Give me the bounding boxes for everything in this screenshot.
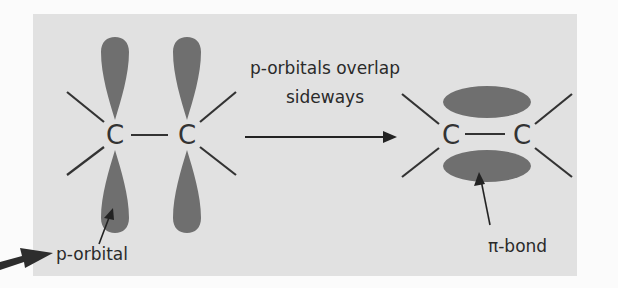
p-orbital-lobe-upper-right (173, 37, 201, 120)
transition-caption-line2: sideways (225, 89, 425, 106)
p-orbital-lobe-lower-left (101, 150, 129, 233)
p-orbital-lobe-lower-right (173, 150, 201, 233)
carbon-atom-right-2: C (511, 122, 533, 148)
label-pointer-line (481, 180, 490, 225)
carbon-atom-left-1: C (104, 122, 126, 148)
pi-bond-upper-lobe (443, 86, 531, 118)
transition-caption-line1: p-orbitals overlap (225, 60, 425, 77)
bond-line (67, 92, 104, 122)
bond-line (535, 148, 572, 177)
bond-line (67, 147, 104, 175)
bond-line (200, 147, 236, 175)
bond-line (535, 94, 572, 124)
p-orbital-label: p-orbital (56, 246, 128, 263)
pi-bond-label: π-bond (488, 238, 547, 255)
bold-pointer-arrow-icon (0, 248, 53, 270)
pi-bond-lower-lobe (443, 150, 531, 182)
p-orbital-lobe-upper-left (101, 37, 129, 120)
transition-arrow-head (383, 131, 397, 143)
carbon-atom-right-1: C (440, 122, 462, 148)
bond-line (402, 148, 439, 177)
carbon-atom-left-2: C (176, 122, 198, 148)
